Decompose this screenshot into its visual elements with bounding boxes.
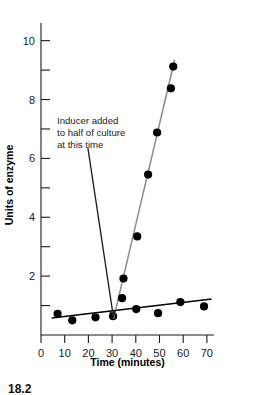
x-axis-title: Time (minutes) [90, 356, 164, 368]
data-point [118, 294, 126, 302]
data-point [167, 84, 175, 92]
data-point [109, 312, 117, 320]
data-point [68, 316, 76, 324]
x-tick-label: 0 [38, 347, 44, 359]
x-tick-label: 70 [201, 347, 213, 359]
annotation-line-1: Inducer added [57, 115, 118, 126]
y-tick-label: 8 [29, 94, 35, 106]
data-point [133, 232, 141, 240]
chart-background [0, 0, 253, 395]
y-axis-title: Units of enzyme [3, 145, 15, 226]
data-point [200, 302, 208, 310]
data-point [153, 128, 161, 136]
enzyme-induction-figure: 246810 010203040506070 Time (minutes) Un… [0, 0, 253, 395]
annotation-line-2: to half of culture [57, 127, 125, 138]
annotation-line-3: at this time [57, 139, 103, 150]
y-tick-label: 10 [23, 35, 35, 47]
data-point [91, 313, 99, 321]
figure-caption: 18.2 [8, 382, 32, 395]
data-point [176, 298, 184, 306]
y-tick-label: 6 [29, 152, 35, 164]
data-point [132, 305, 140, 313]
x-tick-label: 60 [177, 347, 189, 359]
data-point [119, 274, 127, 282]
data-point [53, 310, 61, 318]
y-tick-label: 2 [29, 270, 35, 282]
x-tick-label: 10 [59, 347, 71, 359]
y-tick-label: 4 [29, 211, 35, 223]
data-point [144, 170, 152, 178]
data-point [169, 62, 177, 70]
chart-canvas: 246810 010203040506070 Time (minutes) Un… [0, 0, 253, 395]
data-point [154, 309, 162, 317]
